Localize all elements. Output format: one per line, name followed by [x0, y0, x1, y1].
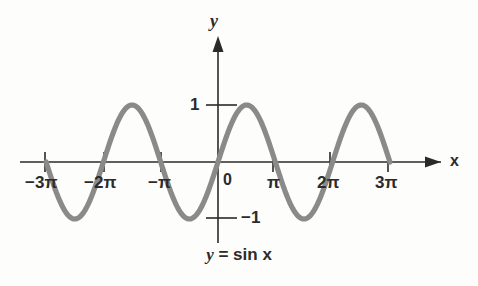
caption-variable: x: [262, 245, 271, 264]
x-tick-label-neg3pi: −3π: [25, 174, 57, 191]
plot-canvas: [0, 0, 478, 286]
figure-caption: y = sin x: [0, 246, 478, 263]
y-tick-label-neg-one: −1: [241, 209, 260, 226]
caption-equals: =: [218, 245, 228, 264]
y-axis-arrow-icon: [213, 36, 224, 52]
x-axis-label: x: [450, 153, 459, 169]
caption-function: sin: [233, 245, 258, 264]
sine-graph-figure: y x 0 1 −1 −3π −2π −π π 2π 3π y = sin x: [0, 0, 478, 286]
y-axis-label: y: [210, 12, 218, 30]
x-tick-label-2pi: 2π: [317, 174, 339, 191]
x-tick-label-negpi: −π: [148, 174, 171, 191]
caption-lhs: y: [206, 245, 214, 264]
x-axis-arrow-icon: [425, 157, 441, 168]
x-tick-label-3pi: 3π: [375, 174, 397, 191]
y-tick-label-one: 1: [190, 96, 199, 113]
origin-label: 0: [223, 172, 232, 188]
x-tick-label-pi: π: [267, 174, 280, 191]
x-tick-label-neg2pi: −2π: [84, 174, 116, 191]
